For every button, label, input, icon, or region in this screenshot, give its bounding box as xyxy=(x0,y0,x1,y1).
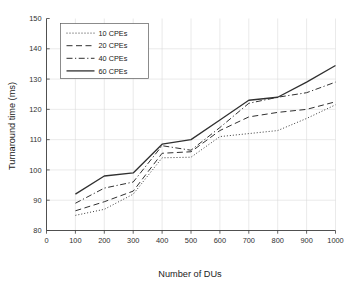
legend-label-40-cpes: 40 CPEs xyxy=(99,54,128,63)
x-tick-label: 900 xyxy=(300,236,312,245)
series-line-10-cpes xyxy=(75,105,335,216)
x-tick-label: 100 xyxy=(69,236,81,245)
y-tick-label: 120 xyxy=(29,105,41,114)
legend-label-60-cpes: 60 CPEs xyxy=(99,67,128,76)
series-line-40-cpes xyxy=(75,82,335,203)
y-axis-title: Turnaround time (ms) xyxy=(7,82,17,170)
y-tick-label: 80 xyxy=(33,226,41,235)
x-tick-label: 0 xyxy=(44,236,48,245)
legend-label-20-cpes: 20 CPEs xyxy=(99,41,128,50)
x-tick-label: 600 xyxy=(214,236,226,245)
y-tick-label: 100 xyxy=(29,166,41,175)
chart-figure: 01002003004005006007008009001000 8090100… xyxy=(0,0,351,284)
x-tick-label: 800 xyxy=(272,236,284,245)
x-tick-label: 200 xyxy=(98,236,110,245)
chart-legend: 10 CPEs20 CPEs40 CPEs60 CPEs xyxy=(61,24,149,79)
x-tick-label: 400 xyxy=(156,236,168,245)
x-tick-label: 300 xyxy=(127,236,139,245)
y-tick-label: 90 xyxy=(33,196,41,205)
y-tick-label: 150 xyxy=(29,14,41,23)
series-line-60-cpes xyxy=(75,65,335,194)
x-tick-label: 500 xyxy=(185,236,197,245)
series-line-20-cpes xyxy=(75,102,335,211)
y-tick-label: 140 xyxy=(29,44,41,53)
y-axis-tick-labels: 8090100110120130140150 xyxy=(29,14,41,235)
x-tick-label: 700 xyxy=(243,236,255,245)
line-chart: 01002003004005006007008009001000 8090100… xyxy=(0,0,351,284)
y-tick-label: 130 xyxy=(29,75,41,84)
legend-label-10-cpes: 10 CPEs xyxy=(99,29,128,38)
y-tick-label: 110 xyxy=(30,135,42,144)
x-axis-title: Number of DUs xyxy=(158,269,222,279)
data-series-group xyxy=(75,65,335,215)
x-axis-tick-labels: 01002003004005006007008009001000 xyxy=(44,236,343,245)
x-tick-label: 1000 xyxy=(327,236,343,245)
